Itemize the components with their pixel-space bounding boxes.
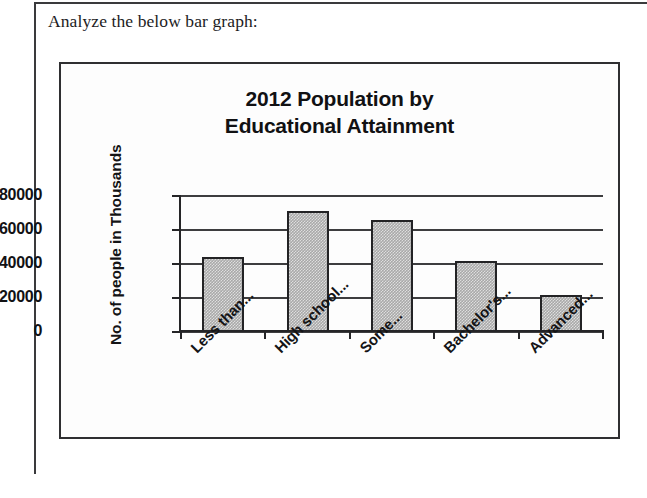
- y-axis-tick-label: 80000: [0, 186, 42, 204]
- x-axis-tick: [349, 330, 351, 339]
- bar-chart-figure: 2012 Population by Educational Attainmen…: [59, 62, 620, 439]
- page-instruction-text: Analyze the below bar graph:: [48, 11, 258, 32]
- y-axis-tick: [172, 195, 181, 197]
- x-axis-tick: [518, 330, 520, 339]
- y-axis-title: No. of people in Thousands: [107, 145, 125, 345]
- y-axis-tick: [172, 297, 181, 299]
- x-axis-tick: [180, 330, 182, 339]
- chart-title-line-1: 2012 Population by: [61, 86, 618, 113]
- y-axis-tick-label: 0: [0, 322, 42, 340]
- chart-title-line-2: Educational Attainment: [61, 113, 618, 140]
- chart-title: 2012 Population by Educational Attainmen…: [61, 86, 618, 140]
- gridline: [181, 195, 603, 197]
- y-axis-tick-label: 60000: [0, 220, 42, 238]
- page-border-top: [34, 2, 647, 4]
- x-axis-tick: [264, 330, 266, 339]
- y-axis-tick-label: 20000: [0, 288, 42, 306]
- y-axis-tick-label: 40000: [0, 254, 42, 272]
- x-axis-tick: [433, 330, 435, 339]
- y-axis-tick: [172, 229, 181, 231]
- x-axis-tick: [602, 330, 604, 339]
- y-axis-tick: [172, 263, 181, 265]
